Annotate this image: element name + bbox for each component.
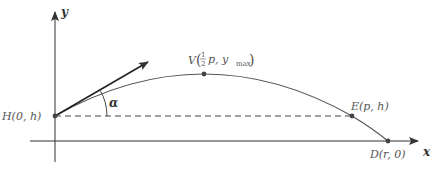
trajectory-curve — [55, 74, 388, 141]
svg-text:p, y: p, y — [208, 53, 229, 66]
svg-text:2: 2 — [201, 60, 205, 68]
point-v — [202, 72, 207, 77]
point-h — [53, 114, 58, 119]
point-h-label: H(0, h) — [1, 110, 41, 123]
point-e — [350, 114, 355, 119]
svg-text:): ) — [249, 52, 254, 68]
x-axis-label: x — [422, 145, 431, 159]
y-axis-label: y — [60, 5, 69, 19]
angle-alpha-label: α — [109, 96, 118, 110]
velocity-vector-arrow — [55, 62, 148, 116]
projectile-diagram: x y α H(0, h) V ( 1 2 p, y max ) E(p, h)… — [0, 0, 444, 170]
point-d-label: D(r, 0) — [369, 148, 405, 161]
point-e-label: E(p, h) — [350, 100, 389, 113]
svg-text:1: 1 — [201, 51, 205, 59]
point-d — [386, 139, 391, 144]
point-v-label: V ( 1 2 p, y max ) — [188, 51, 254, 68]
